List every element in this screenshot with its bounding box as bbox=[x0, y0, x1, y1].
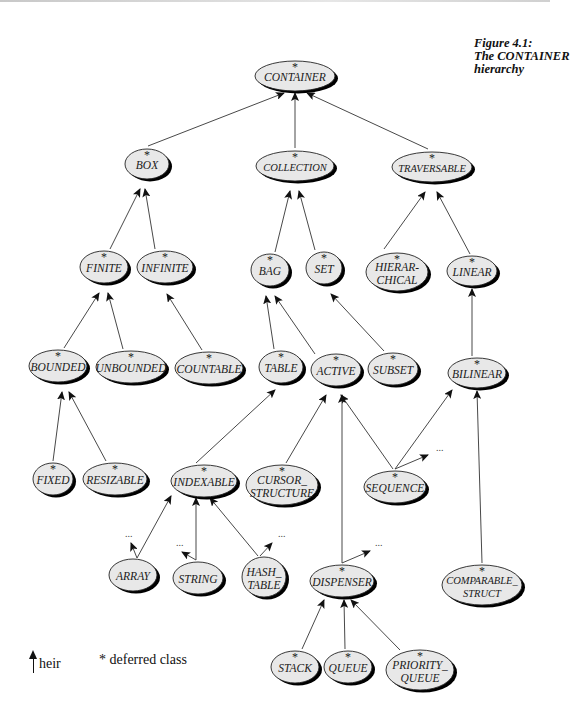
class-node-box: *BOX bbox=[125, 148, 172, 182]
node-label: INDEXABLE bbox=[172, 476, 234, 488]
inheritance-arrow bbox=[260, 543, 272, 556]
class-node-linear: *LINEAR bbox=[447, 255, 500, 289]
node-label: STRUCTURE bbox=[250, 487, 314, 499]
inheritance-arrow bbox=[167, 294, 202, 350]
node-label: PRIORITY_ bbox=[391, 659, 448, 671]
node-label: UNBOUNDED bbox=[96, 362, 168, 374]
node-label: STRING bbox=[179, 573, 219, 585]
node-label: COUNTABLE bbox=[177, 363, 242, 375]
legend-deferred-class: * deferred class bbox=[99, 652, 187, 668]
node-label: COLLECTION bbox=[263, 162, 328, 173]
class-node-queue: *QUEUE bbox=[324, 650, 375, 686]
node-label: STRUCT bbox=[463, 588, 502, 599]
class-node-hash-table: HASH_TABLE bbox=[242, 557, 289, 600]
node-label: SEQUENCE bbox=[366, 482, 425, 494]
node-label: QUEUE bbox=[329, 662, 368, 674]
inheritance-arrow bbox=[108, 293, 123, 349]
class-node-countable: *COUNTABLE bbox=[175, 351, 246, 387]
inheritance-arrow bbox=[307, 93, 428, 149]
inheritance-arrow bbox=[351, 600, 400, 650]
more-heirs-ellipsis: ... bbox=[278, 528, 286, 539]
class-node-hierarchical: *HIERAR-CHICAL bbox=[366, 252, 431, 294]
more-heirs-ellipsis: ... bbox=[436, 442, 444, 453]
node-label: TRAVERSABLE bbox=[398, 163, 466, 174]
class-node-resizable: *RESIZABLE bbox=[83, 462, 150, 498]
node-label: DISPENSER bbox=[311, 576, 371, 588]
figure-caption: Figure 4.1: The CONTAINER hierarchy bbox=[474, 37, 570, 76]
class-node-bilinear: *BILINEAR bbox=[448, 357, 509, 391]
inheritance-arrow bbox=[342, 551, 370, 563]
node-label: FIXED bbox=[35, 474, 70, 486]
inheritance-arrow bbox=[286, 395, 326, 463]
class-node-container: *CONTAINER bbox=[255, 60, 338, 94]
node-label: QUEUE bbox=[401, 672, 440, 684]
class-node-cursor-structure: *CURSOR_STRUCTURE bbox=[246, 464, 321, 508]
inheritance-arrow bbox=[131, 543, 137, 558]
legend-heir: heir bbox=[29, 650, 89, 680]
class-node-unbounded: *UNBOUNDED bbox=[96, 350, 169, 386]
class-node-sequence: *SEQUENCE bbox=[364, 470, 429, 506]
class-node-table: *TABLE bbox=[259, 350, 306, 386]
class-node-bounded: *BOUNDED bbox=[29, 349, 90, 385]
node-label: FINITE bbox=[85, 262, 122, 274]
caption-title-line-2: hierarchy bbox=[474, 63, 570, 76]
inheritance-arrow bbox=[302, 600, 324, 649]
node-label: ARRAY bbox=[115, 570, 151, 582]
class-node-subset: *SUBSET bbox=[368, 352, 421, 388]
inheritance-arrow bbox=[275, 296, 315, 354]
class-node-indexable: *INDEXABLE bbox=[171, 464, 240, 500]
inheritance-arrow bbox=[299, 191, 315, 250]
inheritance-arrow bbox=[275, 191, 290, 252]
node-label: ACTIVE bbox=[316, 365, 356, 377]
inheritance-arrow bbox=[182, 552, 196, 560]
class-node-set: *SET bbox=[306, 251, 345, 287]
class-node-priority-queue: *PRIORITY_QUEUE bbox=[386, 649, 457, 693]
node-label: RESIZABLE bbox=[85, 474, 144, 486]
class-node-bag: *BAG bbox=[251, 253, 292, 289]
class-node-finite: *FINITE bbox=[80, 250, 131, 286]
inheritance-arrow bbox=[344, 600, 345, 649]
node-label: STACK bbox=[278, 662, 313, 674]
class-node-stack: *STACK bbox=[271, 650, 322, 686]
node-label: CONTAINER bbox=[264, 71, 326, 83]
node-label: HASH_ bbox=[245, 566, 281, 578]
class-node-traversable: *TRAVERSABLE bbox=[392, 151, 475, 185]
class-node-string: STRING bbox=[173, 562, 226, 597]
inheritance-arrow bbox=[53, 392, 62, 461]
inheritance-arrow bbox=[210, 498, 258, 556]
more-heirs-ellipsis: ... bbox=[125, 528, 133, 539]
node-label: CHICAL bbox=[377, 274, 418, 286]
node-label: BILINEAR bbox=[452, 368, 502, 380]
node-label: TABLE bbox=[264, 362, 297, 374]
node-label: SUBSET bbox=[373, 364, 415, 376]
node-label: INFINITE bbox=[140, 262, 188, 274]
inheritance-arrow bbox=[110, 189, 140, 249]
class-node-fixed: *FIXED bbox=[33, 462, 76, 498]
inheritance-arrow bbox=[331, 294, 384, 351]
arrow-shaft bbox=[33, 656, 34, 673]
inheritance-arrow bbox=[384, 192, 425, 249]
node-label: COMPARABLE_ bbox=[446, 575, 518, 586]
class-node-infinite: *INFINITE bbox=[137, 250, 196, 286]
class-node-array: ARRAY bbox=[109, 559, 160, 594]
node-label: HIERAR- bbox=[374, 261, 419, 273]
inheritance-arrow bbox=[266, 296, 274, 349]
more-heirs-ellipsis: ... bbox=[176, 537, 184, 548]
inheritance-arrow bbox=[69, 392, 106, 461]
inheritance-arrow bbox=[137, 496, 171, 558]
legend-heir-label: heir bbox=[39, 656, 61, 672]
inheritance-arrow bbox=[145, 189, 155, 249]
node-label: BAG bbox=[259, 265, 282, 277]
class-nodes: *CONTAINER*BOX*COLLECTION*TRAVERSABLE*FI… bbox=[29, 60, 525, 693]
inheritance-arrow bbox=[341, 395, 393, 469]
node-label: LINEAR bbox=[452, 266, 492, 278]
class-node-dispenser: *DISPENSER bbox=[310, 564, 377, 600]
class-node-comparable-struct: *COMPARABLE_STRUCT bbox=[442, 564, 525, 608]
class-node-collection: *COLLECTION bbox=[256, 150, 337, 184]
node-label: TABLE bbox=[247, 579, 280, 591]
inheritance-arrow bbox=[437, 192, 470, 254]
class-node-active: *ACTIVE bbox=[311, 353, 364, 389]
inheritance-arrow bbox=[64, 293, 99, 348]
inheritance-arrow bbox=[477, 391, 482, 563]
